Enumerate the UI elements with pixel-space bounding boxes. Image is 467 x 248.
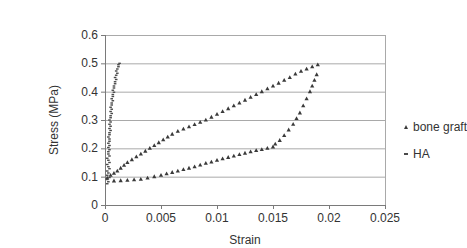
bone-graft-point [115,169,119,173]
bone-graft-point [243,151,247,155]
bone-graft-point [288,75,292,79]
bone-graft-point [237,152,241,156]
bone-graft-point [152,143,156,147]
bone-graft-point [125,178,129,182]
ha-point [114,81,117,82]
bone-graft-point [148,146,152,150]
bone-graft-point [315,72,319,76]
y-tick-label: 0.2 [81,141,98,155]
ha-point [108,138,111,139]
ha-point [109,107,112,108]
ha-point [106,179,109,180]
ha-point [116,73,119,74]
bone-graft-point [308,89,312,93]
ha-point [106,183,109,184]
ha-point [116,68,119,69]
bone-graft-point [176,129,180,133]
bone-graft-point [134,155,138,159]
bone-graft-point [187,166,191,170]
bone-graft-point [130,157,134,161]
ha-point [109,111,112,112]
stress-strain-chart: 00.10.20.30.40.50.600.0050.010.0150.020.… [40,16,384,227]
triangle-marker-icon [404,125,408,129]
ha-point [108,119,111,120]
y-tick-label: 0.3 [81,113,98,127]
bone-graft-point [305,67,309,71]
ha-point [113,87,116,88]
ha-point [110,109,113,110]
bone-graft-point [112,179,116,183]
bone-graft-point [119,166,123,170]
bone-graft-point [226,106,230,110]
bone-graft-point [232,154,236,158]
bone-graft-point [282,78,286,82]
bone-graft-point [298,111,302,115]
bone-graft-point [132,177,136,181]
ha-point [110,102,113,103]
bone-graft-point [287,128,291,132]
ha-point [107,181,110,182]
bone-graft-point [152,174,156,178]
bone-graft-point [312,78,316,82]
ha-point [109,117,112,118]
bone-graft-point [143,149,147,153]
bone-graft-point [278,138,282,142]
bone-graft-point [310,84,314,88]
bone-graft-point [145,176,149,180]
bone-graft-point [204,118,208,122]
ha-point [107,151,110,152]
bone-graft-point [209,160,213,164]
bone-graft-point [170,170,174,174]
bone-graft-point [310,64,314,68]
bone-graft-point [181,167,185,171]
legend-item-ha: HA [404,146,467,162]
bone-graft-point [215,112,219,116]
ha-point [109,121,112,122]
ha-point [108,149,111,150]
bone-graft-point [249,149,253,153]
ha-point [112,96,115,97]
y-tick-label: 0.5 [81,56,98,70]
bone-graft-point [198,163,202,167]
ha-point [117,66,120,67]
bone-graft-point [204,161,208,165]
bone-graft-point [112,171,116,175]
bone-graft-point [273,142,277,146]
bone-graft-point [122,163,126,167]
ha-point [115,70,118,71]
bone-graft-point [226,155,230,159]
x-tick-label: 0 [102,211,109,225]
ha-point [109,115,112,116]
bone-graft-point [291,122,295,126]
ha-point [115,75,118,76]
ha-point [107,143,110,144]
x-axis-title: Strain [215,233,275,247]
ha-point [107,153,110,154]
bone-graft-point [166,135,170,139]
x-tick-label: 0.01 [205,211,229,225]
bone-graft-point [157,140,161,144]
bone-graft-point [260,89,264,93]
ha-point [114,77,117,78]
legend: bone graftHA [404,119,467,173]
bone-graft-point [301,104,305,108]
ha-point [118,63,121,64]
bone-graft-point [221,157,225,161]
bone-graft-point [187,125,191,129]
x-tick-label: 0.015 [258,211,288,225]
bone-graft-point [193,122,197,126]
bone-graft-point [243,98,247,102]
legend-label: bone graft [413,120,467,134]
x-tick-label: 0.02 [317,211,341,225]
ha-point [108,168,111,169]
bone-graft-point [265,87,269,91]
ha-point [107,160,110,161]
bone-graft-point [299,69,303,73]
ha-point [112,100,115,101]
bone-graft-point [316,62,320,66]
bone-graft-point [294,116,298,120]
bone-graft-point [249,95,253,99]
ha-point [110,104,113,105]
bone-graft-point [232,104,236,108]
bone-graft-point [305,96,309,100]
